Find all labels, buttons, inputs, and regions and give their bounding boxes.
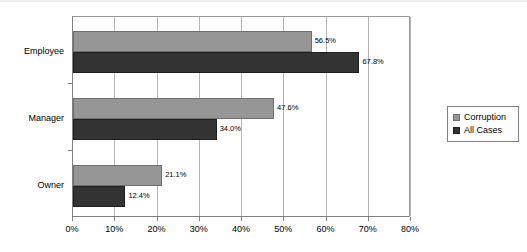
bar-value-label: 34.0%: [220, 124, 241, 133]
gridline: [368, 17, 369, 216]
x-axis-tick: [199, 217, 200, 221]
x-axis-tick: [326, 217, 327, 221]
bar-value-label: 67.8%: [362, 57, 383, 66]
plot-area: [72, 16, 410, 217]
bar-employee-all-cases: [73, 52, 359, 73]
x-axis-tick: [368, 217, 369, 221]
x-axis-tick-label: 50%: [263, 224, 303, 235]
scan-edge-artifact: [0, 0, 527, 2]
bar-manager-corruption: [73, 98, 274, 119]
gridline: [410, 17, 411, 216]
x-axis-tick-label: 60%: [306, 224, 346, 235]
x-axis-tick: [283, 217, 284, 221]
x-axis-tick-label: 40%: [221, 224, 261, 235]
x-axis-tick-label: 20%: [137, 224, 177, 235]
bar-value-label: 21.1%: [165, 170, 186, 179]
bar-manager-all-cases: [73, 119, 217, 140]
bar-value-label: 12.4%: [128, 191, 149, 200]
legend-item-corruption: Corruption: [453, 111, 514, 124]
category-label-owner: Owner: [0, 180, 64, 191]
legend-swatch-icon-corruption: [453, 114, 460, 121]
x-axis-tick: [157, 217, 158, 221]
x-axis-tick: [72, 217, 73, 221]
gridline: [326, 17, 327, 216]
x-axis-tick-label: 70%: [348, 224, 388, 235]
x-axis-tick-label: 30%: [179, 224, 219, 235]
x-axis-tick-label: 80%: [390, 224, 430, 235]
category-label-employee: Employee: [0, 46, 64, 57]
legend-swatch-icon-all-cases: [453, 127, 460, 134]
x-axis-tick: [410, 217, 411, 221]
legend: Corruption All Cases: [447, 106, 519, 142]
x-axis-tick-label: 0%: [52, 224, 92, 235]
bar-value-label: 56.5%: [315, 36, 336, 45]
bar-owner-corruption: [73, 165, 162, 186]
bar-employee-corruption: [73, 31, 312, 52]
bar-owner-all-cases: [73, 186, 125, 207]
bar-chart: Employee Manager Owner 56.5%67.8%47.6%34…: [0, 0, 527, 252]
category-label-manager: Manager: [0, 113, 64, 124]
x-axis-tick: [114, 217, 115, 221]
legend-label-corruption: Corruption: [464, 112, 506, 123]
x-axis-tick: [241, 217, 242, 221]
x-axis-tick-label: 10%: [94, 224, 134, 235]
legend-label-all-cases: All Cases: [464, 125, 502, 136]
bar-value-label: 47.6%: [277, 103, 298, 112]
legend-item-all-cases: All Cases: [453, 124, 514, 137]
